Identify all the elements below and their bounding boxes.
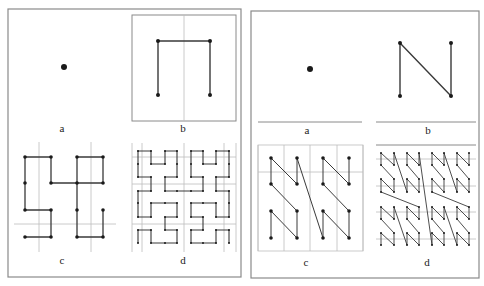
grid-point (23, 181, 27, 185)
grid-point (49, 155, 53, 159)
grid-point (228, 242, 230, 244)
grid-point (202, 190, 204, 192)
grid-point (190, 242, 192, 244)
panel-label: a (305, 124, 310, 136)
grid-point (393, 178, 395, 180)
grid-point (321, 236, 325, 240)
grid-point (269, 209, 273, 213)
grid-point (215, 150, 217, 152)
grid-point (215, 190, 217, 192)
grid-point (398, 41, 402, 45)
grid-point (443, 178, 445, 180)
panel-label: d (180, 254, 186, 266)
panel-label: a (60, 122, 65, 134)
grid-point (456, 232, 458, 234)
grid-point (321, 182, 325, 186)
grid-point (456, 244, 458, 246)
grid-point (393, 206, 395, 208)
grid-point (269, 156, 273, 160)
grid-point (398, 94, 402, 98)
grid-point (347, 182, 351, 186)
grid-point (23, 155, 27, 159)
grid-point (321, 156, 325, 160)
grid-point (137, 229, 139, 231)
grid-point (431, 232, 433, 234)
grid-point (101, 235, 105, 239)
n-order-3-curve (381, 153, 469, 245)
grid-point (202, 150, 204, 152)
grid-point (406, 164, 408, 166)
grid-point (215, 242, 217, 244)
grid-point (406, 206, 408, 208)
grid-point (380, 244, 382, 246)
grid-point (443, 152, 445, 154)
grid-point (164, 176, 166, 178)
grid-point (137, 163, 139, 165)
grid-point (393, 164, 395, 166)
grid-point (23, 208, 27, 212)
grid-point (190, 229, 192, 231)
grid-point (468, 178, 470, 180)
hilbert-curve-figure: abcd (8, 9, 241, 277)
grid-point (418, 164, 420, 166)
grid-point (443, 164, 445, 166)
grid-point (215, 216, 217, 218)
grid-point (443, 232, 445, 234)
grid-point (228, 229, 230, 231)
grid-point (208, 39, 212, 43)
grid-point (164, 216, 166, 218)
grid-point (431, 244, 433, 246)
grid-point (468, 152, 470, 154)
grid-point (443, 206, 445, 208)
grid-point (150, 176, 152, 178)
grid-point (190, 190, 192, 192)
grid-point (215, 202, 217, 204)
grid-point (75, 208, 79, 212)
grid-point (393, 244, 395, 246)
grid-point (393, 191, 395, 193)
panel-label: c (304, 256, 309, 268)
grid-point (380, 232, 382, 234)
grid-point (418, 206, 420, 208)
grid-point (228, 202, 230, 204)
grid-point (137, 190, 139, 192)
grid-point (202, 163, 204, 165)
grid-point (468, 164, 470, 166)
grid-point (449, 41, 453, 45)
n-order-1-curve (400, 43, 451, 96)
grid-point (176, 163, 178, 165)
grid-point (150, 202, 152, 204)
grid-point (176, 176, 178, 178)
grid-point (176, 229, 178, 231)
grid-point (431, 218, 433, 220)
grid-point (456, 218, 458, 220)
grid-point (406, 218, 408, 220)
grid-point (456, 178, 458, 180)
grid-point (49, 235, 53, 239)
grid-point (156, 93, 160, 97)
grid-point (269, 182, 273, 186)
grid-point (406, 232, 408, 234)
grid-point (23, 235, 27, 239)
grid-point (468, 218, 470, 220)
grid-point (150, 163, 152, 165)
grid-point (164, 202, 166, 204)
grid-point (347, 209, 351, 213)
grid-point (295, 156, 299, 160)
grid-point (295, 236, 299, 240)
grid-point (176, 216, 178, 218)
grid-point (406, 191, 408, 193)
grid-point (228, 216, 230, 218)
grid-point (215, 163, 217, 165)
grid-point (164, 242, 166, 244)
grid-point (75, 235, 79, 239)
grid-point (228, 163, 230, 165)
grid-point (443, 244, 445, 246)
single-point (61, 64, 67, 70)
panel-label: b (180, 122, 186, 134)
grid-point (190, 216, 192, 218)
grid-point (431, 191, 433, 193)
grid-point (347, 236, 351, 240)
grid-point (137, 202, 139, 204)
panel-label: d (424, 256, 430, 268)
